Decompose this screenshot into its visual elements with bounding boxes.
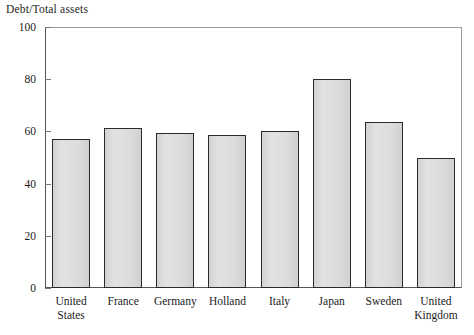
bar bbox=[52, 139, 90, 288]
x-axis-tick-label: UnitedKingdom bbox=[410, 294, 462, 322]
y-axis-tick-label: 60 bbox=[2, 125, 36, 137]
x-axis-tick-label-line: United bbox=[410, 294, 462, 308]
x-axis-tick-label: Germany bbox=[149, 294, 201, 308]
x-axis-tick-label: Japan bbox=[306, 294, 358, 308]
x-axis-tick-label-line: States bbox=[45, 308, 97, 322]
x-axis-tick-label-line: Italy bbox=[254, 294, 306, 308]
y-axis-tick-label: 100 bbox=[2, 21, 36, 33]
x-axis-tick-label: UnitedStates bbox=[45, 294, 97, 322]
bar bbox=[208, 135, 246, 288]
x-axis-tick-label-line: Holland bbox=[201, 294, 253, 308]
x-axis-tick-label-line: Japan bbox=[306, 294, 358, 308]
y-axis-tick-label: 20 bbox=[2, 230, 36, 242]
y-axis-tick-mark bbox=[45, 288, 51, 289]
bar bbox=[417, 158, 455, 289]
x-axis-tick-label: Italy bbox=[254, 294, 306, 308]
y-axis-tick-label: 40 bbox=[2, 178, 36, 190]
bar bbox=[365, 122, 403, 288]
bar-chart: Debt/Total assets 100806040200 UnitedSta… bbox=[0, 0, 474, 335]
x-axis-tick-label-line: Germany bbox=[149, 294, 201, 308]
bar bbox=[104, 128, 142, 289]
y-axis-tick-label: 0 bbox=[2, 282, 36, 294]
bar bbox=[261, 131, 299, 288]
x-axis-tick-label-line: Sweden bbox=[358, 294, 410, 308]
x-axis-tick-label-line: United bbox=[45, 294, 97, 308]
y-axis-tick-label: 80 bbox=[2, 73, 36, 85]
x-axis-tick-label-line: France bbox=[97, 294, 149, 308]
x-axis-tick-label-line: Kingdom bbox=[410, 308, 462, 322]
x-axis-tick-label: Holland bbox=[201, 294, 253, 308]
x-axis-tick-label: France bbox=[97, 294, 149, 308]
x-axis-tick-label: Sweden bbox=[358, 294, 410, 308]
bar bbox=[313, 79, 351, 288]
chart-title: Debt/Total assets bbox=[6, 3, 88, 15]
bars-layer bbox=[45, 27, 462, 288]
bar bbox=[156, 133, 194, 288]
